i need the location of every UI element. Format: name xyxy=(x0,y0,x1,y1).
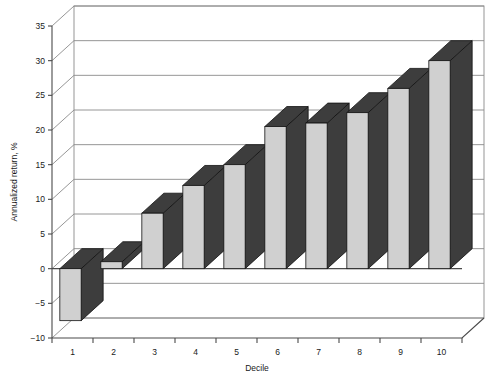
bar-column xyxy=(306,103,349,269)
x-tick-label: 8 xyxy=(357,347,362,357)
bar-side-face xyxy=(368,93,390,269)
x-axis-title: Decile xyxy=(245,363,269,373)
y-tick-label: −5 xyxy=(35,298,45,308)
bar-front-face xyxy=(224,165,245,269)
x-tick-label: 6 xyxy=(275,347,280,357)
bar-column xyxy=(388,68,431,268)
bar-front-face xyxy=(347,113,368,269)
x-tick-label: 2 xyxy=(111,347,116,357)
x-tick-label: 5 xyxy=(234,347,239,357)
bar-chart-3d: 35302520151050−5−10 12345678910 DecileAn… xyxy=(0,0,487,376)
x-tick-label: 4 xyxy=(193,347,198,357)
bar-column xyxy=(265,107,308,269)
bar-column xyxy=(183,165,226,268)
y-tick-label: 15 xyxy=(36,160,46,170)
bar-column xyxy=(429,41,472,269)
y-tick-label: −10 xyxy=(31,333,46,343)
bar-front-face xyxy=(60,269,81,321)
bar-side-face xyxy=(286,107,308,269)
bar-front-face xyxy=(429,61,450,269)
bar-side-face xyxy=(409,68,431,268)
y-tick-label: 20 xyxy=(36,125,46,135)
y-tick-label: 5 xyxy=(40,229,45,239)
bar-front-face xyxy=(388,88,409,268)
y-tick-label: 0 xyxy=(40,264,45,274)
bar-column xyxy=(347,93,390,269)
bar-side-face xyxy=(327,103,349,269)
bar-front-face xyxy=(183,185,204,268)
bar-front-face xyxy=(142,213,163,268)
y-tick-label: 35 xyxy=(36,21,46,31)
bar-side-face xyxy=(450,41,472,269)
bar-side-face xyxy=(245,145,267,269)
bar-front-face xyxy=(265,127,286,269)
y-tick-label: 25 xyxy=(36,90,46,100)
bar-column xyxy=(224,145,267,269)
y-tick-label: 30 xyxy=(36,56,46,66)
x-tick-label: 1 xyxy=(70,347,75,357)
y-tick-label: 10 xyxy=(36,194,46,204)
y-axis-title: Annualized return, % xyxy=(9,142,19,221)
x-tick-label: 9 xyxy=(398,347,403,357)
x-tick-label: 10 xyxy=(437,347,447,357)
bar-front-face xyxy=(306,123,327,269)
bar-front-face xyxy=(101,262,122,269)
x-tick-label: 7 xyxy=(316,347,321,357)
chart-container: 35302520151050−5−10 12345678910 DecileAn… xyxy=(0,0,487,376)
x-tick-label: 3 xyxy=(152,347,157,357)
